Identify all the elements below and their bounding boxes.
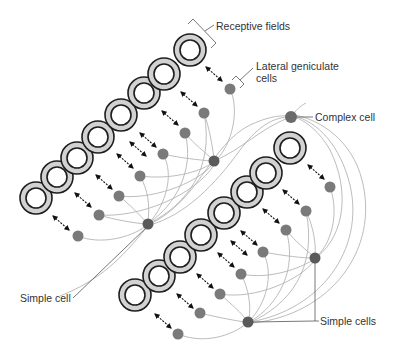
- label-lgn-line2: cells: [256, 72, 277, 84]
- receptive-field-ring: [250, 157, 282, 189]
- lgn-cell: [325, 182, 336, 193]
- lgn-cell: [225, 84, 236, 95]
- complex-cell: [285, 111, 297, 123]
- lgn-cell: [94, 210, 105, 221]
- lgn-cell: [180, 128, 191, 139]
- label-receptive-fields: Receptive fields: [216, 20, 290, 32]
- receptive-field-ring: [274, 132, 306, 164]
- lgn-cell: [173, 329, 184, 340]
- lgn-cell: [258, 247, 269, 258]
- simple-cell: [209, 156, 220, 167]
- receptive-field-ring: [174, 34, 206, 66]
- lgn-cell: [281, 225, 292, 236]
- lgn-cell: [158, 149, 169, 160]
- simple-cell: [310, 253, 321, 264]
- simple-cell: [243, 317, 254, 328]
- lgn-cell: [301, 206, 312, 217]
- lgn-cell: [135, 171, 146, 182]
- label-simple-cell: Simple cell: [20, 292, 71, 304]
- visual-cortex-receptive-field-diagram: Receptive fields Lateral geniculate cell…: [0, 0, 393, 357]
- lgn-cell: [215, 289, 226, 300]
- lgn-cell: [236, 269, 247, 280]
- simple-cell: [143, 219, 154, 230]
- lgn-cell: [73, 231, 84, 242]
- lgn-cell: [195, 308, 206, 319]
- label-simple-cells: Simple cells: [320, 315, 376, 327]
- lgn-cell: [114, 191, 125, 202]
- label-lgn-line1: Lateral geniculate: [256, 60, 339, 72]
- label-complex-cell: Complex cell: [315, 111, 375, 123]
- lgn-cell: [199, 108, 210, 119]
- receptive-field-ring: [148, 58, 180, 90]
